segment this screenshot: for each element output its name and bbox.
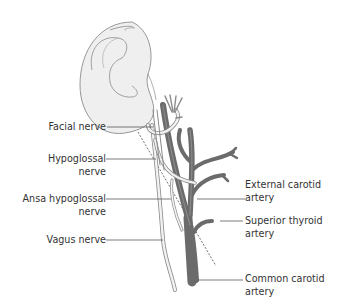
label-text: artery [245, 191, 321, 204]
label-common-carotid-artery: Common carotid artery [245, 272, 325, 298]
label-text: Vagus nerve [47, 233, 106, 246]
label-text: Facial nerve [48, 120, 106, 133]
label-vagus-nerve: Vagus nerve [47, 233, 106, 246]
ear-illustration [80, 22, 156, 134]
label-text: nerve [23, 205, 106, 218]
label-hypoglossal-nerve: Hypoglossal nerve [48, 152, 106, 178]
label-text: Ansa hypoglossal [23, 192, 106, 205]
label-facial-nerve: Facial nerve [48, 120, 106, 133]
label-text: artery [245, 227, 323, 240]
label-external-carotid-artery: External carotid artery [245, 178, 321, 204]
label-text: External carotid [245, 178, 321, 191]
label-text: Superior thyroid [245, 214, 323, 227]
label-text: Common carotid [245, 272, 325, 285]
anatomy-diagram: Facial nerve Hypoglossal nerve Ansa hypo… [0, 0, 345, 307]
carotid-arteries [163, 105, 237, 282]
label-text: artery [245, 285, 325, 298]
label-text: nerve [48, 165, 106, 178]
label-text: Hypoglossal [48, 152, 106, 165]
label-superior-thyroid-artery: Superior thyroid artery [245, 214, 323, 240]
leader-lines [106, 127, 245, 280]
label-ansa-hypoglossal-nerve: Ansa hypoglossal nerve [23, 192, 106, 218]
